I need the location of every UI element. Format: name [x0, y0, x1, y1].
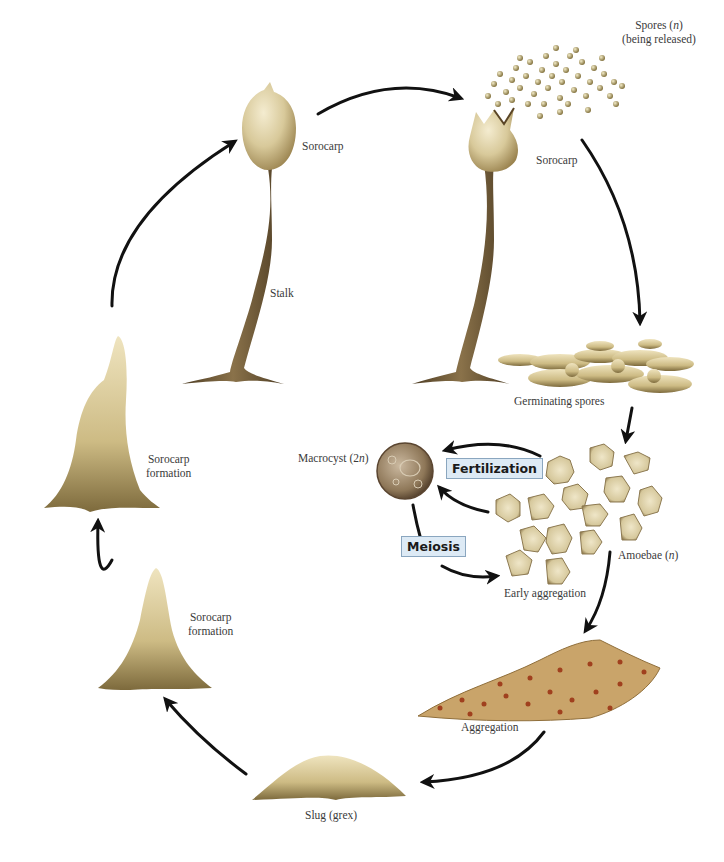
arrow-release-to-germinating [582, 140, 640, 322]
label-macrocyst-end: ) [365, 452, 369, 464]
label-spores-main: Spores ( [635, 19, 673, 31]
label-spores-end: ) [679, 19, 683, 31]
label-amoebae-end: ) [675, 549, 679, 561]
label-sorocarp-formation-late: Sorocarp formation [146, 452, 191, 480]
label-sorocarp-formation-early: Sorocarp formation [188, 610, 233, 638]
spores-cloud [485, 45, 625, 119]
aggregation-illustration [418, 640, 660, 721]
arrow-aggregation-to-slug [424, 732, 544, 782]
germinating-spores-illustration [498, 339, 694, 393]
arrow-slug-to-formation [166, 700, 246, 774]
sorocarp-releasing-illustration [412, 108, 518, 384]
label-macrocyst-main: Macrocyst (2 [298, 452, 359, 464]
label-germinating-spores: Germinating spores [514, 394, 604, 408]
label-stalk: Stalk [270, 286, 294, 300]
label-early-aggregation: Early aggregation [504, 586, 586, 600]
stalk-illustration [182, 168, 284, 384]
label-sorocarp-formation-late-line1: Sorocarp [148, 453, 190, 465]
arrow-amoebae-to-macrocyst-top [446, 444, 540, 456]
label-aggregation: Aggregation [461, 720, 518, 734]
label-amoebae: Amoebae (n) [618, 548, 678, 562]
label-sorocarp-formation-late-line2: formation [146, 467, 191, 479]
life-cycle-diagram [0, 0, 724, 862]
meiosis-label: Meiosis [401, 536, 466, 557]
arrow-germinating-to-amoebae [626, 408, 632, 440]
arrow-formation-to-sorocarp [112, 142, 234, 306]
slug-illustration [252, 755, 406, 800]
macrocyst-illustration [377, 443, 433, 499]
label-amoebae-main: Amoebae ( [618, 549, 669, 561]
label-sorocarp-mature: Sorocarp [302, 139, 344, 153]
arrow-amoebae-to-aggregation [586, 552, 610, 630]
arrow-sorocarp-to-release [318, 88, 460, 114]
sorocarp-head [242, 82, 296, 170]
fertilization-label: Fertilization [446, 458, 543, 479]
label-sorocarp-releasing: Sorocarp [536, 153, 578, 167]
arrow-macrocyst-meiosis [413, 505, 421, 540]
label-spores-line2: (being released) [622, 33, 696, 45]
arrow-meiosis-to-amoebae [442, 566, 496, 577]
label-sorocarp-formation-early-line1: Sorocarp [190, 611, 232, 623]
sorocarp-formation-late-illustration [44, 336, 160, 512]
sorocarp-burst-head [469, 108, 519, 172]
sorocarp-mature-illustration [182, 82, 296, 384]
label-spores: Spores (n) (being released) [600, 18, 718, 46]
label-slug: Slug (grex) [305, 808, 357, 822]
arrow-formation-to-formation [98, 522, 112, 569]
label-macrocyst: Macrocyst (2n) [298, 451, 369, 465]
arrow-amoebae-to-macrocyst-lower [440, 488, 488, 512]
label-sorocarp-formation-early-line2: formation [188, 625, 233, 637]
